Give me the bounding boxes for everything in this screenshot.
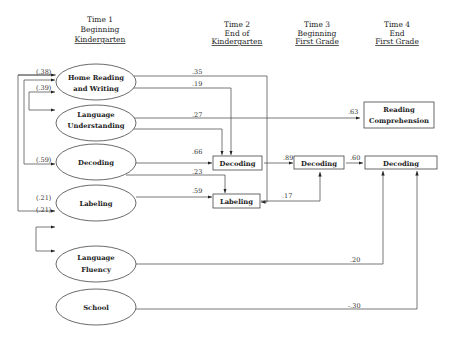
header-time1-label: Time 1 (87, 15, 113, 24)
corr-home-langund-line (29, 92, 55, 110)
node-langund-line1: Language (77, 111, 115, 119)
path-fluency-to-decoding-t4 (136, 171, 383, 264)
header-time1-period: Kindergarten (75, 35, 126, 44)
node-labeling-t1-label: Labeling (79, 200, 112, 208)
node-decoding-t3-label: Decoding (301, 160, 337, 168)
corr-home-reading: (.38) (36, 68, 52, 76)
coef-fluency-decoding: .20 (350, 256, 360, 264)
node-school-label: School (83, 304, 109, 312)
path-diagram: Time 1 Beginning Kindergarten Time 2 End… (0, 0, 453, 338)
node-reading-line2: Comprehension (369, 117, 429, 125)
header-time4: Time 4 End First Grade (375, 20, 419, 46)
coef-home-decoding: .19 (192, 80, 202, 88)
node-langund-line2: Understanding (68, 122, 125, 130)
path-home-to-decoding-t2 (132, 88, 231, 155)
header-time1-sub: Beginning (81, 25, 120, 34)
node-decoding-t4: Decoding (365, 156, 437, 169)
node-decoding-t1: Decoding (56, 144, 136, 180)
coef-labeling-t1-t2: .59 (192, 187, 202, 195)
corr-labeling-b: (.21) (36, 206, 52, 214)
header-time3-label: Time 3 (304, 20, 330, 29)
corr-labeling-a: (.21) (36, 194, 52, 202)
header-time2: Time 2 End of Kindergarten (212, 20, 263, 46)
node-reading-comprehension: Reading Comprehension (364, 102, 434, 128)
corr-language-understanding: (.39) (36, 84, 52, 92)
node-decoding-t4-label: Decoding (383, 160, 419, 168)
node-decoding-t3: Decoding (294, 156, 344, 169)
coef-school-decoding: -.30 (348, 302, 361, 310)
path-school-to-decoding-t4 (136, 171, 417, 309)
path-decoding-t1-to-labeling-t2 (126, 175, 225, 193)
coef-decoding-t1-t2: .66 (192, 148, 202, 156)
node-labeling-t2-label: Labeling (220, 198, 253, 206)
coef-langund-reading: .63 (348, 108, 358, 116)
coef-decoding-labeling: .23 (192, 168, 202, 176)
node-school: School (56, 289, 136, 325)
node-labeling-t1: Labeling (56, 185, 136, 221)
header-time2-period: Kindergarten (212, 37, 263, 46)
coef-decoding-t2-t3: .89 (283, 154, 293, 162)
coef-home-labeling: .35 (192, 68, 202, 76)
node-reading-line1: Reading (383, 106, 415, 114)
corr-labeling-fluency-line (36, 227, 55, 251)
path-langund-to-decoding-t2 (133, 129, 222, 155)
node-fluency-line2: Fluency (81, 266, 112, 274)
node-language-fluency: Language Fluency (56, 246, 136, 282)
header-time2-label: Time 2 (224, 20, 250, 29)
node-home-reading-line1: Home Reading (68, 74, 124, 82)
header-time4-label: Time 4 (384, 20, 410, 29)
node-fluency-line1: Language (77, 254, 115, 262)
node-decoding-t2-label: Decoding (220, 160, 256, 168)
header-time3-period: First Grade (295, 37, 339, 46)
node-language-understanding: Language Understanding (56, 105, 136, 141)
node-home-reading: Home Reading and Writing (56, 64, 136, 100)
node-home-reading-line2: and Writing (73, 85, 119, 93)
header-time1: Time 1 Beginning Kindergarten (75, 15, 126, 44)
header-time4-period: First Grade (375, 37, 419, 46)
corr-decoding: (.59) (36, 156, 52, 164)
node-labeling-t2: Labeling (213, 194, 260, 208)
node-decoding-t1-label: Decoding (78, 159, 114, 167)
header-time3: Time 3 Beginning First Grade (295, 20, 339, 46)
coef-decoding-t3-t4: .60 (350, 154, 360, 162)
path-home-to-labeling-t2 (134, 76, 267, 202)
coef-labeling-decoding-t3: .17 (282, 192, 292, 200)
coef-langund-decoding: .27 (192, 111, 202, 119)
node-decoding-t2: Decoding (213, 156, 262, 170)
